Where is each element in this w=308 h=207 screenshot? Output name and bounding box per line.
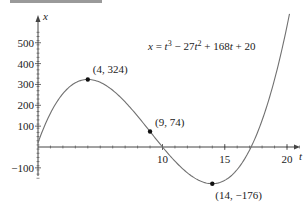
y-tick-label: −100 <box>11 162 34 174</box>
y-tick-label: 300 <box>18 78 35 90</box>
point-label: (4, 324) <box>93 63 128 76</box>
annotated-points: (4, 324)(9, 74)(14, −176) <box>86 63 263 201</box>
y-axis-label: x <box>42 10 48 22</box>
point-label: (9, 74) <box>155 116 185 129</box>
y-tick-label: 100 <box>18 120 35 132</box>
y-tick-label: 200 <box>18 99 35 111</box>
x-axis-label: t <box>299 150 303 162</box>
cubic-plot: xt 101520−100100200300400500 (4, 324)(9,… <box>0 0 308 207</box>
equation-label: x = t3 − 27t2 + 168t + 20 <box>147 39 256 52</box>
point-label: (14, −176) <box>215 189 262 202</box>
x-tick-label: 20 <box>282 153 294 165</box>
data-point <box>210 181 214 185</box>
y-tick-label: 500 <box>18 37 35 49</box>
axes: xt <box>36 10 304 176</box>
data-point <box>86 77 90 81</box>
data-point <box>148 129 152 133</box>
x-tick-label: 15 <box>219 153 231 165</box>
y-tick-label: 400 <box>18 58 35 70</box>
x-tick-label: 10 <box>157 153 169 165</box>
